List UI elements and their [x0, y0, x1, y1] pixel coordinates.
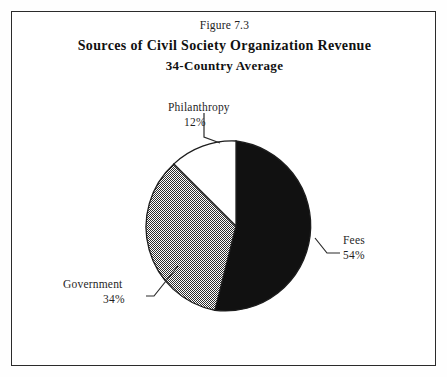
leader-line-philanthropy: [204, 113, 220, 143]
pie-label-philanthropy-name: Philanthropy: [168, 101, 230, 114]
pie-label-government-value: 34%: [103, 293, 125, 305]
pie-label-government-name: Government: [63, 278, 123, 290]
pie-chart: Philanthropy 12% Government 34% Fees 54%: [12, 12, 437, 367]
pie-label-philanthropy-value: 12%: [184, 116, 206, 128]
figure-root: Figure 7.3 Sources of Civil Society Orga…: [0, 0, 447, 377]
pie-label-fees-value: 54%: [343, 249, 365, 261]
figure-frame: Figure 7.3 Sources of Civil Society Orga…: [11, 11, 436, 366]
leader-line-fees: [315, 238, 340, 253]
pie-label-fees-name: Fees: [343, 234, 365, 246]
